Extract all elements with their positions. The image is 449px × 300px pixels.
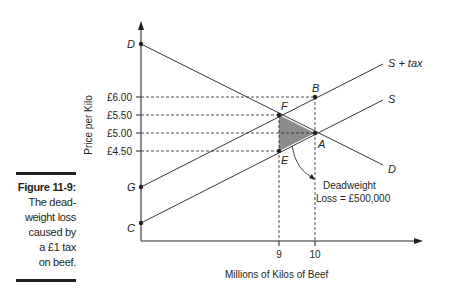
y-axis-arrow-icon	[138, 21, 144, 30]
label-S: S	[388, 93, 396, 105]
label-A: A	[317, 138, 325, 150]
x-axis-arrow-icon	[414, 238, 423, 244]
point-F	[277, 113, 281, 117]
label-D: D	[127, 38, 135, 50]
label-D-end: D	[388, 163, 396, 175]
deadweight-label-line2: Loss = £500,000	[316, 193, 391, 204]
x-axis-title: Millions of Kilos of Beef	[225, 269, 329, 280]
annotation-arrowhead-icon	[309, 174, 315, 180]
deadweight-label-line1: Deadweight	[323, 180, 376, 191]
quantity-tick-10: 10	[309, 249, 321, 260]
point-C	[139, 221, 143, 225]
deadweight-loss-chart: D G C F B A E S + tax S D £6.00 £5.50 £5…	[0, 0, 449, 300]
y-axis-title: Price per Kilo	[83, 95, 94, 155]
annotation-arrow	[292, 146, 313, 178]
supply-curve	[141, 100, 383, 223]
point-A	[313, 131, 317, 135]
point-E	[277, 149, 281, 153]
price-tick-500: £5.00	[107, 128, 132, 139]
axes	[141, 28, 416, 241]
label-E: E	[281, 154, 289, 166]
label-S-plus-tax: S + tax	[388, 57, 423, 69]
point-D	[139, 42, 143, 46]
tick-marks	[136, 97, 315, 246]
label-G: G	[127, 181, 136, 193]
label-C: C	[127, 222, 135, 234]
label-F: F	[281, 100, 289, 112]
supply-plus-tax-curve	[141, 64, 383, 187]
price-tick-450: £4.50	[107, 146, 132, 157]
quantity-tick-9: 9	[276, 249, 282, 260]
label-B: B	[312, 82, 319, 94]
demand-curve	[141, 44, 383, 165]
price-tick-550: £5.50	[107, 110, 132, 121]
reference-lines	[141, 97, 315, 241]
point-B	[313, 95, 317, 99]
price-tick-600: £6.00	[107, 92, 132, 103]
point-G	[139, 185, 143, 189]
